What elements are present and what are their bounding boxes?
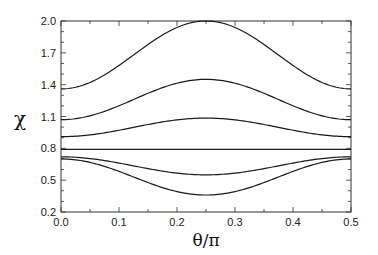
x-tick-label: 0.4 <box>285 216 300 228</box>
data-series <box>61 21 351 195</box>
plot-border <box>61 21 351 212</box>
axis-ticks <box>61 21 351 212</box>
curve-1 <box>61 21 351 89</box>
curve-6 <box>61 159 351 195</box>
x-tick-label: 0.1 <box>111 216 126 228</box>
x-tick-label: 0.3 <box>227 216 242 228</box>
curve-3 <box>61 118 351 137</box>
chart: 0.00.10.20.30.40.5 0.20.50.81.11.41.72.0… <box>0 0 378 255</box>
y-tick-labels: 0.20.50.81.11.41.72.0 <box>41 15 56 218</box>
y-tick-label: 1.4 <box>41 79 56 91</box>
y-tick-label: 0.2 <box>41 206 56 218</box>
y-axis-label: χ <box>14 107 26 131</box>
y-tick-label: 0.5 <box>41 174 56 186</box>
x-axis-label: θ/π <box>192 230 219 250</box>
y-tick-label: 2.0 <box>41 15 56 27</box>
y-tick-label: 0.8 <box>41 142 56 154</box>
plot-frame <box>61 21 351 212</box>
x-tick-label: 0.5 <box>343 216 358 228</box>
y-tick-label: 1.1 <box>41 111 56 123</box>
curve-2 <box>61 79 351 119</box>
x-tick-labels: 0.00.10.20.30.40.5 <box>53 216 358 228</box>
y-tick-label: 1.7 <box>41 47 56 59</box>
x-tick-label: 0.2 <box>169 216 184 228</box>
